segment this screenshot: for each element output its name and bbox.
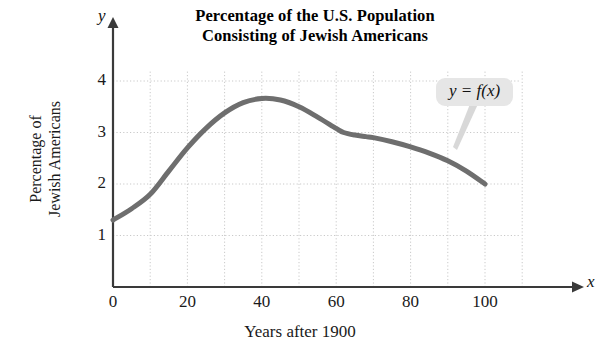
- callout-leader-line: [453, 104, 478, 150]
- y-axis-arrowhead: [108, 17, 119, 28]
- x-tick-label: 20: [167, 292, 207, 312]
- function-annotation-callout: y = f(x): [436, 78, 513, 106]
- y-axis-title-line-1: Percentage of: [26, 59, 45, 259]
- x-tick-label: 60: [316, 292, 356, 312]
- x-tick-label: 0: [93, 292, 133, 312]
- y-tick-label: 3: [84, 122, 106, 142]
- y-tick-label: 4: [84, 70, 106, 90]
- y-axis-title-line-2: Jewish Americans: [45, 59, 64, 259]
- x-axis-title: Years after 1900: [160, 322, 440, 342]
- y-tick-label: 1: [84, 225, 106, 245]
- x-tick-label: 40: [242, 292, 282, 312]
- chart-figure: Percentage of the U.S. Population Consis…: [0, 0, 613, 356]
- x-axis-variable-label: x: [587, 272, 595, 292]
- x-tick-label: 100: [465, 292, 505, 312]
- y-axis-title: Percentage of Jewish Americans: [26, 59, 64, 259]
- x-tick-label: 80: [391, 292, 431, 312]
- y-axis-variable-label: y: [98, 6, 106, 26]
- y-tick-label: 2: [84, 173, 106, 193]
- x-axis-arrowhead: [572, 282, 584, 293]
